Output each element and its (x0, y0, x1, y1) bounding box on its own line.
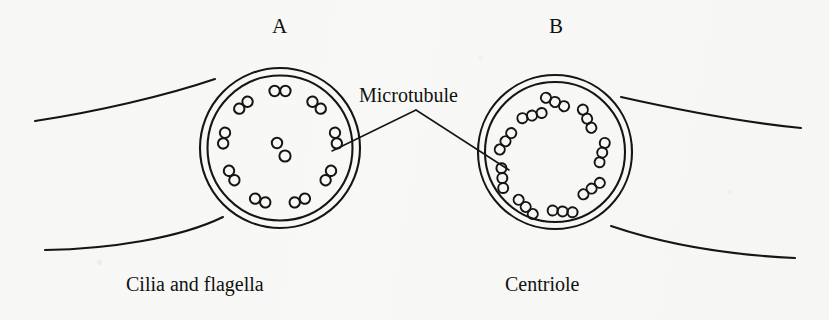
membrane-upper-left-curve (35, 79, 215, 121)
central-singlet-1 (272, 138, 282, 148)
leader-line-right (416, 110, 509, 170)
triplet-7 (496, 163, 509, 194)
doublet-5 (288, 192, 311, 209)
doublet-7 (222, 164, 242, 188)
triplet-8 (493, 126, 518, 156)
triplet-6 (512, 193, 540, 221)
triplet-3 (593, 137, 610, 169)
panel-a-caption: Cilia and flagella (126, 274, 264, 294)
triplet-5 (547, 205, 578, 218)
triplet-9 (516, 107, 548, 124)
panel-a-central-pair (272, 138, 291, 162)
triplet-4 (576, 176, 606, 201)
microtubule-label: Microtubule (359, 85, 458, 105)
panel-a-letter: A (272, 16, 287, 37)
doublet-9 (232, 94, 255, 116)
membrane-lower-right-curve (611, 226, 795, 258)
panel-b-peripheral-triplets (493, 91, 611, 221)
diagram-svg (0, 0, 829, 320)
doublet-4 (318, 164, 338, 188)
panel-b-inner-membrane (485, 82, 625, 222)
panel-b-structure (478, 75, 632, 229)
membrane-upper-right-curve (621, 97, 801, 128)
panel-b-caption: Centriole (505, 274, 579, 294)
doublet-8 (217, 127, 231, 150)
doublet-6 (248, 192, 271, 209)
figure-root: A B Microtubule Cilia and flagella Centr… (0, 0, 829, 320)
panel-b-letter: B (549, 16, 563, 37)
central-singlet-2 (279, 150, 290, 161)
panel-a-structure (200, 68, 360, 228)
doublet-1 (269, 86, 290, 96)
membrane-lower-left-curve (45, 217, 223, 250)
doublet-2 (305, 94, 328, 116)
triplet-2 (576, 103, 598, 134)
